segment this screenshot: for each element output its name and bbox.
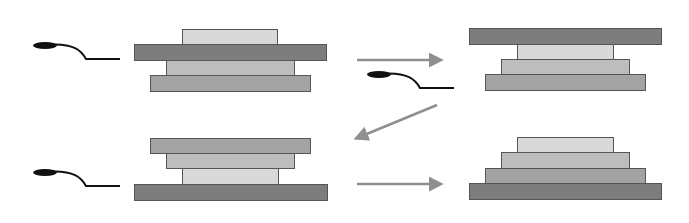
plate-dark bbox=[135, 45, 327, 61]
spatula-tool-icon bbox=[33, 42, 120, 59]
plate-midlight bbox=[167, 154, 295, 169]
plate-mid bbox=[151, 139, 311, 154]
plate-dark bbox=[135, 185, 328, 201]
plate-dark bbox=[470, 184, 662, 200]
plate-light bbox=[183, 169, 279, 185]
spatula-tool-icon bbox=[33, 169, 120, 186]
arrow-2-to-3-icon bbox=[357, 105, 437, 138]
panel-step-4 bbox=[470, 138, 662, 200]
plate-mid bbox=[486, 75, 646, 91]
plate-midlight bbox=[167, 61, 295, 76]
arrows-layer bbox=[357, 60, 440, 184]
panel-step-3 bbox=[33, 139, 328, 201]
plate-light bbox=[518, 138, 614, 153]
stacking-sequence-diagram bbox=[0, 0, 689, 223]
plate-mid bbox=[151, 76, 311, 92]
plate-midlight bbox=[502, 60, 630, 75]
plate-mid bbox=[486, 169, 646, 184]
plate-midlight bbox=[502, 153, 630, 169]
panel-step-1 bbox=[33, 30, 327, 92]
plate-light bbox=[518, 45, 614, 60]
spatula-tool-icon bbox=[367, 71, 454, 88]
panels-layer bbox=[33, 29, 662, 201]
plate-dark bbox=[470, 29, 662, 45]
plate-light bbox=[183, 30, 278, 45]
